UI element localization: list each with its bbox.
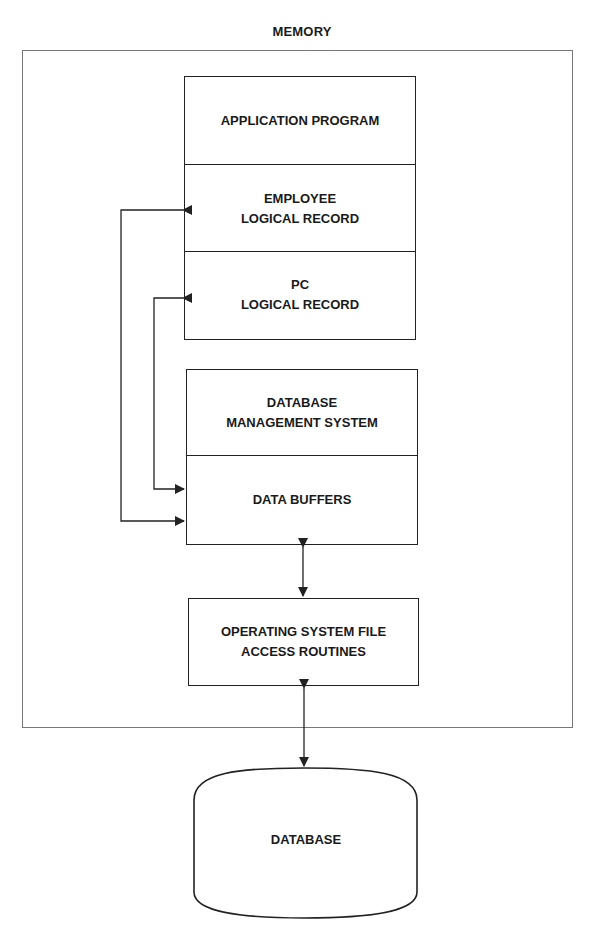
pc-buffer-arrow [154,298,184,489]
employee-buffer-arrow [121,210,184,521]
database-label: DATABASE [193,832,419,847]
connectors [0,0,604,930]
